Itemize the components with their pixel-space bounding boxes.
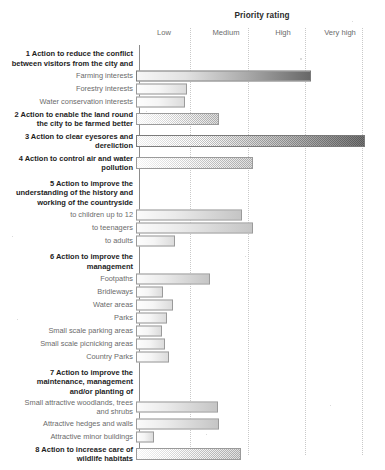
bar-cell-heading-7: [136, 367, 385, 397]
row-label-parks: Parks: [0, 313, 136, 322]
bar-to-children-up-to-12: [136, 209, 242, 220]
bar-small-scale-parking-areas: [136, 325, 162, 336]
chart-row-attractive-minor-buildings: Attractive minor buildings: [0, 430, 385, 443]
chart-row-country-parks: Country Parks: [0, 350, 385, 363]
bar-cell-heading-1: [136, 48, 385, 69]
row-label-attractive-minor-buildings: Attractive minor buildings: [0, 432, 136, 441]
bar-cell-heading-5: [136, 178, 385, 208]
row-label-heading-5: 5 Action to improve the understanding of…: [0, 179, 136, 207]
bar-cell-attractive-minor-buildings: [136, 430, 385, 443]
bar-cell-heading-8: [136, 443, 385, 465]
row-label-water-areas: Water areas: [0, 300, 136, 309]
row-label-heading-1: 1 Action to reduce the conflict between …: [0, 49, 136, 68]
row-label-forestry-interests: Forestry interests: [0, 84, 136, 93]
bar-cell-heading-2: [136, 108, 385, 130]
row-label-heading-8: 8 Action to increase care of wildlife ha…: [0, 445, 136, 464]
bar-footpaths: [136, 273, 210, 284]
chart-row-heading-7: 7 Action to improve the maintenance, man…: [0, 367, 385, 397]
bar-heading-3: [136, 135, 365, 147]
bar-heading-8: [136, 448, 241, 460]
chart-row-small-attractive-woodlands: Small attractive woodlands, trees and sh…: [0, 397, 385, 417]
row-label-small-attractive-woodlands: Small attractive woodlands, trees and sh…: [0, 398, 136, 416]
bar-water-conservation-interests: [136, 96, 185, 107]
bar-farming-interests: [136, 70, 311, 81]
chart-row-heading-6: 6 Action to improve the management: [0, 251, 385, 272]
row-label-attractive-hedges-and-walls: Attractive hedges and walls: [0, 419, 136, 428]
chart-row-footpaths: Footpaths: [0, 272, 385, 285]
bar-cell-attractive-hedges-and-walls: [136, 417, 385, 430]
row-label-farming-interests: Farming interests: [0, 71, 136, 80]
bar-cell-bridleways: [136, 285, 385, 298]
chart-row-heading-5: 5 Action to improve the understanding of…: [0, 178, 385, 208]
chart-row-to-children-up-to-12: to children up to 12: [0, 208, 385, 221]
chart-row-heading-4: 4 Action to control air and water pollut…: [0, 152, 385, 174]
chart-row-heading-2: 2 Action to enable the land round the ci…: [0, 108, 385, 130]
bar-cell-water-areas: [136, 298, 385, 311]
bar-country-parks: [136, 351, 169, 362]
bar-cell-heading-6: [136, 251, 385, 272]
chart-rows: 1 Action to reduce the conflict between …: [0, 0, 385, 470]
bar-forestry-interests: [136, 83, 187, 94]
bar-cell-to-teenagers: [136, 221, 385, 234]
bar-bridleways: [136, 286, 163, 297]
bar-small-scale-picnicking-areas: [136, 338, 165, 349]
row-label-heading-7: 7 Action to improve the maintenance, man…: [0, 368, 136, 396]
priority-rating-chart: Priority rating LowMediumHighVery high 1…: [0, 0, 385, 470]
chart-row-attractive-hedges-and-walls: Attractive hedges and walls: [0, 417, 385, 430]
bar-cell-heading-4: [136, 152, 385, 174]
bar-heading-4: [136, 157, 253, 169]
chart-row-small-scale-picnicking-areas: Small scale picnicking areas: [0, 337, 385, 350]
bar-cell-parks: [136, 311, 385, 324]
bar-cell-to-adults: [136, 234, 385, 247]
bar-cell-to-children-up-to-12: [136, 208, 385, 221]
bar-cell-small-attractive-woodlands: [136, 397, 385, 417]
chart-row-heading-8: 8 Action to increase care of wildlife ha…: [0, 443, 385, 465]
row-label-heading-4: 4 Action to control air and water pollut…: [0, 154, 136, 173]
row-label-water-conservation-interests: Water conservation interests: [0, 97, 136, 106]
chart-row-farming-interests: Farming interests: [0, 69, 385, 82]
row-label-heading-2: 2 Action to enable the land round the ci…: [0, 110, 136, 129]
chart-row-heading-3: 3 Action to clear eyesores and derelicti…: [0, 130, 385, 152]
row-label-to-children-up-to-12: to children up to 12: [0, 210, 136, 219]
chart-row-small-scale-parking-areas: Small scale parking areas: [0, 324, 385, 337]
chart-row-water-areas: Water areas: [0, 298, 385, 311]
bar-cell-country-parks: [136, 350, 385, 363]
row-label-bridleways: Bridleways: [0, 287, 136, 296]
row-label-country-parks: Country Parks: [0, 352, 136, 361]
row-label-small-scale-picnicking-areas: Small scale picnicking areas: [0, 339, 136, 348]
row-label-small-scale-parking-areas: Small scale parking areas: [0, 326, 136, 335]
bar-cell-small-scale-picnicking-areas: [136, 337, 385, 350]
bar-cell-farming-interests: [136, 69, 385, 82]
chart-row-heading-1: 1 Action to reduce the conflict between …: [0, 48, 385, 69]
bar-heading-2: [136, 113, 219, 125]
chart-row-water-conservation-interests: Water conservation interests: [0, 95, 385, 108]
row-label-heading-6: 6 Action to improve the management: [0, 252, 136, 271]
bar-to-teenagers: [136, 222, 253, 233]
row-label-heading-3: 3 Action to clear eyesores and derelicti…: [0, 132, 136, 151]
bar-cell-forestry-interests: [136, 82, 385, 95]
chart-row-bridleways: Bridleways: [0, 285, 385, 298]
chart-row-forestry-interests: Forestry interests: [0, 82, 385, 95]
bar-small-attractive-woodlands: [136, 402, 218, 413]
bar-cell-small-scale-parking-areas: [136, 324, 385, 337]
row-label-to-teenagers: to teenagers: [0, 223, 136, 232]
row-label-footpaths: Footpaths: [0, 274, 136, 283]
chart-row-to-teenagers: to teenagers: [0, 221, 385, 234]
row-label-to-adults: to adults: [0, 236, 136, 245]
bar-parks: [136, 312, 167, 323]
bar-cell-heading-3: [136, 130, 385, 152]
bar-cell-water-conservation-interests: [136, 95, 385, 108]
bar-attractive-minor-buildings: [136, 431, 154, 442]
chart-row-to-adults: to adults: [0, 234, 385, 247]
bar-cell-footpaths: [136, 272, 385, 285]
bar-to-adults: [136, 235, 175, 246]
bar-attractive-hedges-and-walls: [136, 418, 219, 429]
chart-row-parks: Parks: [0, 311, 385, 324]
bar-water-areas: [136, 299, 173, 310]
